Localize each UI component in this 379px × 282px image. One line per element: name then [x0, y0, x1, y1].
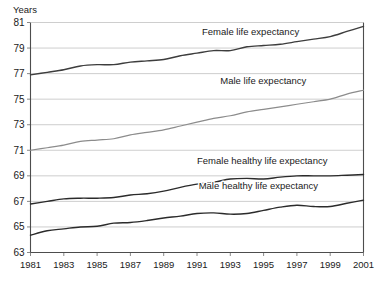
x-tick-label: 1987 [120, 259, 141, 270]
series-label: Female healthy life expectancy [197, 155, 328, 166]
x-tick-label: 1997 [286, 259, 307, 270]
series-line [31, 26, 364, 75]
series-label: Male healthy life expectancy [199, 180, 319, 191]
y-tick-labels-group: 63656769717375777981 [13, 17, 25, 258]
x-tick-label: 1995 [253, 259, 274, 270]
tickmarks-group [27, 23, 364, 257]
x-tick-label: 1991 [186, 259, 207, 270]
y-tick-label: 67 [13, 196, 25, 207]
y-tick-label: 63 [13, 247, 25, 258]
y-tick-label: 73 [13, 119, 25, 130]
series-label: Male life expectancy [220, 75, 306, 86]
y-tick-label: 71 [13, 145, 25, 156]
y-tick-label: 79 [13, 43, 25, 54]
x-tick-labels-group: 1981198319851987198919911993199519971999… [20, 259, 374, 270]
axes-group [31, 23, 364, 253]
x-tick-label: 1989 [153, 259, 174, 270]
y-tick-label: 75 [13, 94, 25, 105]
x-tick-label: 2001 [353, 259, 374, 270]
line-chart: 63656769717375777981 1981198319851987198… [0, 0, 379, 282]
y-tick-label: 65 [13, 221, 25, 232]
series-line [31, 200, 364, 235]
y-tick-label: 81 [13, 17, 25, 28]
x-tick-label: 1993 [220, 259, 241, 270]
x-tick-label: 1985 [87, 259, 108, 270]
x-tick-label: 1999 [320, 259, 341, 270]
chart-container: 63656769717375777981 1981198319851987198… [0, 0, 379, 282]
y-axis-title: Years [13, 4, 37, 15]
data-series-group [31, 26, 364, 235]
series-label: Female life expectancy [202, 26, 299, 37]
y-tick-label: 77 [13, 68, 25, 79]
y-tick-label: 69 [13, 170, 25, 181]
x-tick-label: 1983 [53, 259, 74, 270]
x-tick-label: 1981 [20, 259, 41, 270]
gridlines-group [31, 48, 364, 227]
